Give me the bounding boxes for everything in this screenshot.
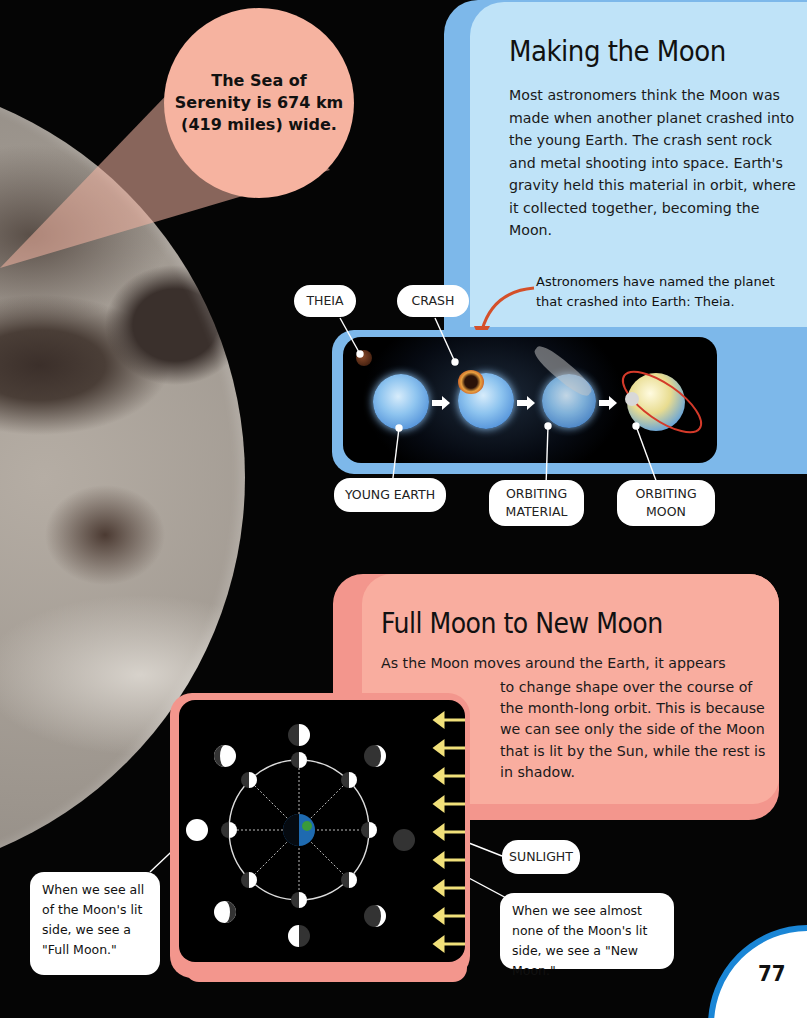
full-moon-phase	[186, 819, 208, 841]
arrow-right-icon	[432, 400, 444, 406]
making-moon-title: Making the Moon	[509, 34, 726, 68]
full-moon-callout: When we see all of the Moon's lit side, …	[30, 872, 160, 975]
waning-crescent-phase	[364, 905, 386, 927]
phases-title: Full Moon to New Moon	[381, 607, 663, 640]
new-moon-phase	[393, 829, 415, 851]
theia-label: THEIA	[294, 285, 356, 317]
orbiting-moon-label-text: ORBITING MOON	[635, 485, 696, 521]
page-number-badge: 77	[708, 925, 807, 1018]
crash-label: CRASH	[397, 285, 469, 317]
crash-label-text: CRASH	[412, 292, 455, 310]
sea-of-serenity-text: The Sea of Serenity is 674 km (419 miles…	[174, 70, 344, 136]
crash-explosion-icon	[458, 370, 484, 394]
theia-label-text: THEIA	[306, 292, 343, 310]
moon-phase-diagram	[179, 700, 469, 962]
making-moon-body: Most astronomers think the Moon was made…	[509, 84, 799, 242]
arrow-right-icon	[517, 400, 529, 406]
sea-of-serenity-bubble: The Sea of Serenity is 674 km (419 miles…	[164, 8, 354, 198]
young-earth-icon	[373, 374, 429, 430]
phase-diagram-frame-shadow	[185, 960, 467, 982]
young-earth-label: YOUNG EARTH	[334, 478, 446, 512]
theia-note: Astronomers have named the planet that c…	[536, 272, 796, 312]
sunlight-label: SUNLIGHT	[502, 840, 580, 874]
arrow-right-icon	[599, 400, 611, 406]
moon-orbit-ring-icon	[612, 360, 712, 450]
orbiting-material-label: ORBITING MATERIAL	[489, 480, 584, 526]
first-quarter-phase	[288, 724, 310, 746]
waxing-gibbous-phase	[214, 745, 236, 767]
waning-gibbous-phase	[214, 901, 236, 923]
phases-body: to change shape over the course of the m…	[500, 677, 770, 783]
theia-planet-icon	[356, 350, 372, 366]
orbiting-moon-label: ORBITING MOON	[617, 480, 715, 526]
page-number: 77	[758, 961, 786, 986]
third-quarter-phase	[288, 925, 310, 947]
sunlight-label-text: SUNLIGHT	[509, 848, 573, 866]
new-moon-callout: When we see almost none of the Moon's li…	[500, 893, 674, 969]
phases-body-line1: As the Moon moves around the Earth, it a…	[381, 655, 726, 671]
young-earth-label-text: YOUNG EARTH	[345, 486, 435, 504]
waxing-crescent-phase	[364, 745, 386, 767]
orbiting-material-label-text: ORBITING MATERIAL	[506, 485, 568, 521]
